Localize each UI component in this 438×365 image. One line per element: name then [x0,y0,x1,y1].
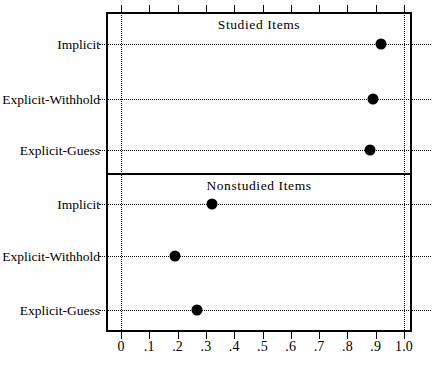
vertical-gridline-1 [404,12,405,332]
tick-bottom-1 [149,331,150,339]
tick-top-8 [347,5,348,13]
category-label-studied-explicit-withhold: Explicit-Withhold [2,92,106,107]
tick-bottom-5 [263,331,264,339]
tick-bottom-9 [376,331,377,339]
tick-top-1 [149,5,150,13]
plot-frame [106,12,412,332]
x-tick-label-10: 1.0 [384,339,424,355]
datapoint-nonstudied-explicit-guess [192,305,203,316]
datapoint-studied-explicit-withhold [367,94,378,105]
tick-bottom-10 [404,331,405,339]
datapoint-nonstudied-explicit-withhold [169,251,180,262]
vertical-gridline-0 [121,12,122,332]
tick-bottom-0 [121,331,122,339]
category-label-nonstudied-implicit: Implicit [57,197,106,212]
datapoint-studied-implicit [376,39,387,50]
tick-top-7 [319,5,320,13]
category-label-nonstudied-explicit-guess: Explicit-Guess [20,303,106,318]
tick-top-5 [263,5,264,13]
tick-bottom-4 [234,331,235,339]
tick-bottom-7 [319,331,320,339]
category-label-nonstudied-explicit-withhold: Explicit-Withhold [2,249,106,264]
tick-top-3 [206,5,207,13]
tick-top-2 [178,5,179,13]
panel-divider [106,173,412,175]
horizontal-gridline-nonstudied-explicit-guess [99,310,431,311]
horizontal-gridline-nonstudied-explicit-withhold [99,256,431,257]
tick-top-4 [234,5,235,13]
category-label-studied-implicit: Implicit [57,37,106,52]
tick-bottom-2 [178,331,179,339]
horizontal-gridline-studied-explicit-guess [99,150,431,151]
datapoint-nonstudied-implicit [206,199,217,210]
category-label-studied-explicit-guess: Explicit-Guess [20,143,106,158]
datapoint-studied-explicit-guess [365,145,376,156]
horizontal-gridline-nonstudied-implicit [99,204,431,205]
panel-title-nonstudied: Nonstudied Items [106,178,412,194]
tick-bottom-8 [347,331,348,339]
dot-plot-figure: 0 .1 .2 .3 .4 .5 .6 .7 .8 .9 1.0 Studied… [0,0,438,365]
panel-title-studied: Studied Items [106,17,412,33]
tick-top-0 [121,5,122,13]
tick-bottom-6 [291,331,292,339]
tick-top-6 [291,5,292,13]
tick-top-9 [376,5,377,13]
tick-bottom-3 [206,331,207,339]
horizontal-gridline-studied-explicit-withhold [99,99,431,100]
tick-top-10 [404,5,405,13]
